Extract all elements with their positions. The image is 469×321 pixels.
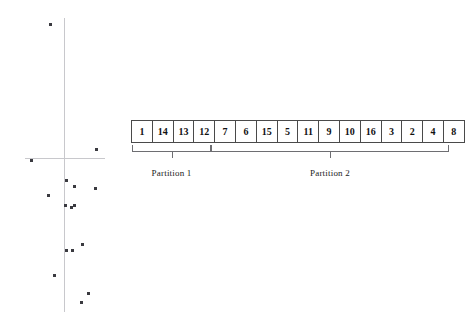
scatter-plot: [0, 0, 130, 321]
partition-brace: [132, 145, 211, 152]
scatter-point: [80, 301, 83, 304]
array-container: 11413127615511910163248: [131, 120, 465, 143]
scatter-point: [94, 187, 97, 190]
scatter-point: [49, 23, 52, 26]
scatter-point: [30, 159, 33, 162]
array-cell[interactable]: 1: [132, 121, 153, 143]
array-cell[interactable]: 9: [319, 121, 340, 143]
array-cell[interactable]: 3: [381, 121, 402, 143]
array-cell[interactable]: 15: [256, 121, 277, 143]
horizontal-axis: [25, 158, 105, 159]
partition-brace-tick: [330, 152, 331, 158]
scatter-point: [95, 148, 98, 151]
scatter-point: [87, 292, 90, 295]
scatter-point: [71, 249, 74, 252]
partition-label: Partition 1: [152, 168, 192, 178]
array-cell[interactable]: 10: [339, 121, 360, 143]
partition-brace-tick: [172, 152, 173, 158]
figure-canvas: 11413127615511910163248 Partition 1Parti…: [0, 0, 469, 321]
array-cell[interactable]: 8: [443, 121, 464, 143]
array-cell[interactable]: 14: [152, 121, 173, 143]
array-cell[interactable]: 7: [215, 121, 236, 143]
array-cell[interactable]: 16: [360, 121, 381, 143]
scatter-point: [73, 204, 76, 207]
scatter-point: [65, 249, 68, 252]
array-cell[interactable]: 11: [298, 121, 319, 143]
array-cell[interactable]: 13: [173, 121, 194, 143]
array-cell[interactable]: 2: [402, 121, 423, 143]
table-row: 11413127615511910163248: [132, 121, 465, 143]
scatter-point: [81, 243, 84, 246]
scatter-point: [65, 179, 68, 182]
array-cell[interactable]: 12: [194, 121, 215, 143]
scatter-point: [53, 274, 56, 277]
scatter-point: [64, 204, 67, 207]
vertical-axis: [64, 18, 65, 312]
array-cell[interactable]: 4: [423, 121, 444, 143]
partition-brace: [211, 145, 449, 152]
array-cell[interactable]: 5: [277, 121, 298, 143]
scatter-point: [47, 194, 50, 197]
partition-label: Partition 2: [310, 168, 350, 178]
array-cell[interactable]: 6: [235, 121, 256, 143]
array-table: 11413127615511910163248: [131, 120, 465, 143]
scatter-point: [73, 185, 76, 188]
